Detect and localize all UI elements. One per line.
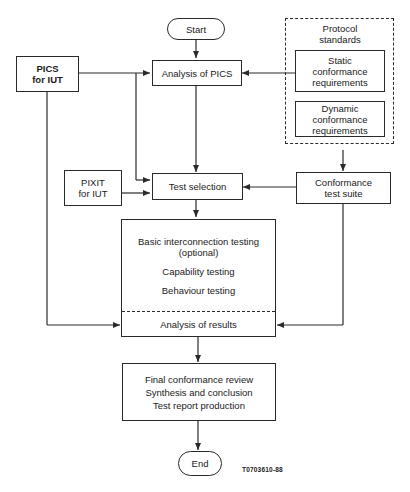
cts-line1: Conformance [315, 177, 372, 188]
final-review-box: Final conformance review Synthesis and c… [122, 363, 276, 421]
static-line2: conformance [313, 66, 368, 77]
basic-interconnection-label: Basic interconnection testing [138, 236, 259, 247]
pixit-line2: for IUT [78, 188, 107, 199]
test-report-label: Test report production [153, 399, 245, 412]
analysis-of-results-label: Analysis of results [160, 319, 237, 330]
dynamic-line1: Dynamic [322, 103, 359, 114]
synthesis-label: Synthesis and conclusion [145, 386, 252, 399]
optional-label: (optional) [138, 247, 259, 258]
static-line3: requirements [312, 77, 367, 88]
protocol-label-line2: standards [319, 34, 361, 45]
cts-line2: test suite [324, 188, 362, 199]
start-label: Start [186, 24, 206, 35]
analysis-of-pics-label: Analysis of PICS [162, 68, 233, 79]
protocol-standards-title: Protocol standards [300, 23, 380, 45]
pics-for-iut-box: PICS for IUT [16, 56, 79, 92]
capability-testing-label: Capability testing [162, 266, 234, 277]
end-label: End [192, 458, 209, 469]
behaviour-testing-label: Behaviour testing [162, 285, 235, 296]
protocol-label-line1: Protocol [323, 23, 358, 34]
pics-label-line1: PICS [36, 63, 58, 74]
pixit-for-iut-box: PIXIT for IUT [64, 170, 122, 206]
start-terminal: Start [167, 18, 225, 40]
test-selection-label: Test selection [169, 181, 227, 192]
pixit-line1: PIXIT [81, 177, 105, 188]
dynamic-line3: requirements [312, 125, 367, 136]
analysis-of-pics-box: Analysis of PICS [152, 60, 242, 86]
static-conformance-box: Static conformance requirements [295, 50, 385, 92]
static-line1: Static [328, 55, 352, 66]
final-review-label: Final conformance review [145, 373, 253, 386]
pics-label-line2: for IUT [32, 74, 63, 85]
testing-box: Basic interconnection testing (optional)… [121, 219, 276, 337]
conformance-test-suite-box: Conformance test suite [296, 172, 391, 204]
end-terminal: End [178, 451, 222, 476]
conformance-assessment-flowchart: Start PICS for IUT Analysis of PICS Prot… [0, 0, 410, 492]
figure-code: T0703610-88 [242, 466, 283, 473]
test-selection-box: Test selection [152, 173, 243, 200]
dynamic-conformance-box: Dynamic conformance requirements [295, 101, 385, 137]
analysis-of-results-section: Analysis of results [122, 311, 275, 336]
dynamic-line2: conformance [313, 114, 368, 125]
